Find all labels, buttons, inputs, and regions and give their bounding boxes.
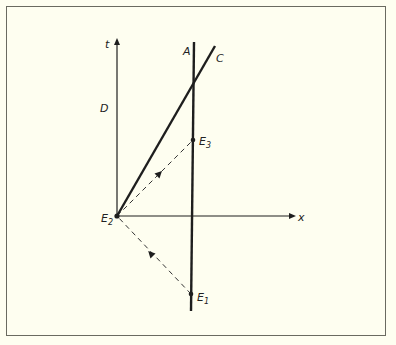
x-axis-arrow-icon xyxy=(289,213,296,219)
worldline-c xyxy=(117,46,215,216)
t-axis-label: t xyxy=(105,38,110,51)
event-e1-point xyxy=(189,292,194,297)
direction-arrow-icon xyxy=(146,249,156,259)
x-axis-label: x xyxy=(297,211,305,224)
svg-text:E1: E1 xyxy=(197,291,209,306)
svg-text:E2: E2 xyxy=(101,212,113,227)
worldline-d-label: D xyxy=(100,102,108,115)
t-axis xyxy=(114,38,120,216)
svg-text:E3: E3 xyxy=(199,135,211,150)
event-e1-label: E1 xyxy=(197,291,209,306)
worldline-a-label: A xyxy=(182,45,191,58)
signal-e1-to-e2 xyxy=(117,216,191,294)
event-e3-label: E3 xyxy=(199,135,211,150)
event-e2-point xyxy=(114,213,119,218)
event-e3-point xyxy=(191,138,196,143)
worldline-c-label: C xyxy=(216,52,224,65)
event-e2-label: E2 xyxy=(101,212,113,227)
spacetime-diagram: t x D A C E3 E2 E1 xyxy=(0,0,396,345)
t-axis-arrow-icon xyxy=(114,38,120,45)
x-axis xyxy=(117,213,296,219)
